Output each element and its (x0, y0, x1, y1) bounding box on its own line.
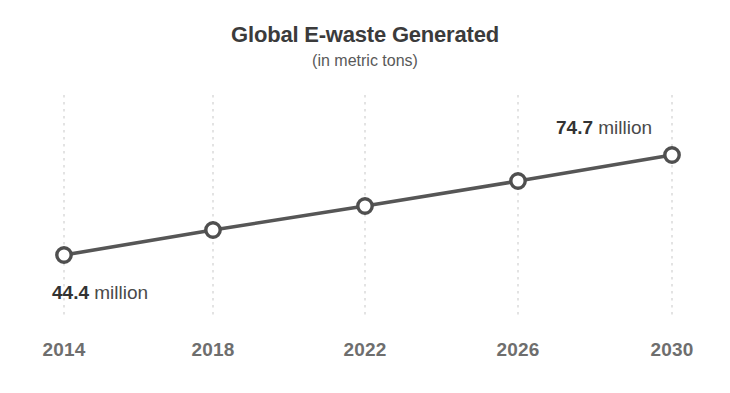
chart-container: Global E-waste Generated (in metric tons… (0, 0, 730, 393)
x-axis-tick-2014: 2014 (42, 340, 85, 359)
value-label-last: 74.7 million (556, 118, 652, 137)
x-axis-tick-2026: 2026 (496, 340, 539, 359)
value-label-first-unit: million (89, 282, 148, 303)
data-point-2018[interactable] (206, 223, 220, 237)
data-point-2022[interactable] (358, 199, 372, 213)
data-point-2030[interactable] (665, 148, 679, 162)
value-label-last-unit: million (593, 117, 652, 138)
x-axis-tick-2022: 2022 (343, 340, 386, 359)
plot-area: 44.4 million 74.7 million 2014 2018 2022… (0, 0, 730, 393)
value-label-first-number: 44.4 (52, 282, 89, 303)
data-point-2026[interactable] (511, 174, 525, 188)
x-axis-tick-2018: 2018 (191, 340, 234, 359)
value-label-first: 44.4 million (52, 283, 148, 302)
line-chart-svg (0, 0, 730, 393)
data-point-2014[interactable] (57, 248, 71, 262)
value-label-last-number: 74.7 (556, 117, 593, 138)
data-markers (57, 148, 679, 262)
x-axis-tick-2030: 2030 (650, 340, 693, 359)
